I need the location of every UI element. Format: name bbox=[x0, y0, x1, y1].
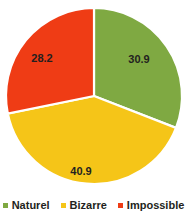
pie-plot-area: 30.9 40.9 28.2 bbox=[0, 0, 187, 191]
pie-chart-figure: 30.9 40.9 28.2 Naturel Bizarre Impossibl… bbox=[0, 0, 187, 223]
legend-item-naturel[interactable]: Naturel bbox=[3, 199, 50, 211]
slice-label-impossible: 28.2 bbox=[31, 52, 52, 64]
legend-label-bizarre: Bizarre bbox=[70, 199, 107, 211]
pie-svg: 30.9 40.9 28.2 bbox=[0, 0, 187, 191]
slice-label-naturel: 30.9 bbox=[128, 53, 149, 65]
legend-label-impossible: Impossible bbox=[127, 199, 184, 211]
legend-label-naturel: Naturel bbox=[12, 199, 50, 211]
legend-item-bizarre[interactable]: Bizarre bbox=[61, 199, 107, 211]
slice-label-bizarre: 40.9 bbox=[70, 165, 91, 177]
legend-swatch-icon-bizarre bbox=[61, 203, 66, 208]
legend-item-impossible[interactable]: Impossible bbox=[118, 199, 184, 211]
chart-legend: Naturel Bizarre Impossible bbox=[0, 195, 187, 215]
legend-swatch-icon-impossible bbox=[118, 203, 123, 208]
legend-swatch-icon-naturel bbox=[3, 203, 8, 208]
